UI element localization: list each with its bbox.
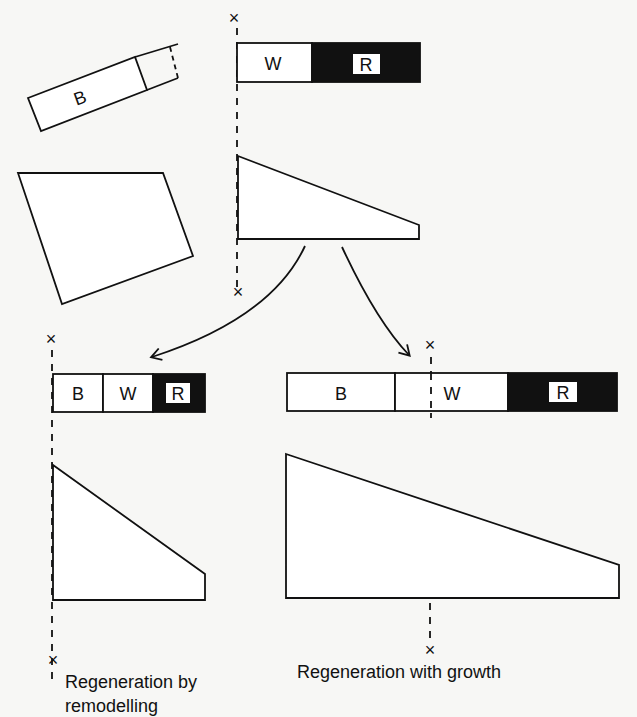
segment-r-label: R xyxy=(557,383,570,403)
segment-r-label: R xyxy=(360,55,373,75)
cut-marker-bottom: × xyxy=(425,640,436,660)
original-organism: × W R × xyxy=(229,8,420,302)
remodelling-result: × B W R × Regeneration by remodelling xyxy=(46,329,205,716)
caption-growth: Regeneration with growth xyxy=(297,662,501,682)
regeneration-diagram: B × W R × × B W R × Regeneration by remo… xyxy=(0,0,637,717)
caption-remodelling-line1: Regeneration by xyxy=(65,672,197,692)
caption-remodelling-line2: remodelling xyxy=(65,696,158,716)
growth-result: × B W R × Regeneration with growth xyxy=(286,335,619,682)
gradient-wedge-growth xyxy=(286,454,619,598)
segment-w-label: W xyxy=(120,384,137,404)
arrow-to-growth xyxy=(342,247,409,355)
segment-w-label: W xyxy=(265,54,282,74)
cut-marker-bottom: × xyxy=(233,282,244,302)
gradient-wedge-remodelling xyxy=(53,465,205,600)
cut-marker-bottom: × xyxy=(48,650,59,670)
cut-marker-top: × xyxy=(425,335,436,355)
cut-marker-top: × xyxy=(229,8,240,28)
segment-r-label: R xyxy=(172,384,185,404)
segment-b-label: B xyxy=(335,384,347,404)
gradient-wedge-original xyxy=(238,156,419,239)
cut-marker-top: × xyxy=(46,329,57,349)
detached-quadrilateral xyxy=(18,173,193,304)
segment-b-label: B xyxy=(72,384,84,404)
detached-b-fragment: B xyxy=(28,44,178,131)
segment-w-label: W xyxy=(444,384,461,404)
